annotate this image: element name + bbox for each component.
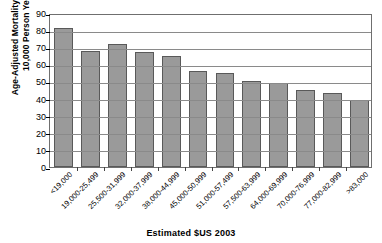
y-axis-tick-label: 60 [22, 60, 46, 70]
gridline [50, 32, 371, 33]
y-axis-tick [46, 15, 50, 16]
gridline [50, 117, 371, 118]
y-axis-tick [46, 151, 50, 152]
y-axis-tick [46, 100, 50, 101]
y-axis-tick-labels: 0102030405060708090 [22, 14, 46, 168]
y-axis-tick-label: 20 [22, 129, 46, 139]
x-axis-tick-labels: <19,00019,000-25,49925,500-31,99932,000-… [49, 170, 372, 226]
y-axis-tick [46, 32, 50, 33]
y-axis-tick-label: 10 [22, 146, 46, 156]
gridline [50, 134, 371, 135]
bar [242, 81, 261, 167]
bar [189, 71, 208, 167]
gridline [50, 83, 371, 84]
gridline [50, 151, 371, 152]
y-axis-tick-label: 90 [22, 9, 46, 19]
y-axis-tick-label: 40 [22, 95, 46, 105]
x-axis-title: Estimated $US 2003 [0, 228, 382, 238]
y-axis-tick [46, 49, 50, 50]
y-axis-tick-label: 30 [22, 112, 46, 122]
bar [323, 93, 342, 167]
y-axis-tick-label: 0 [22, 163, 46, 173]
bar [269, 83, 288, 167]
y-axis-tick [46, 83, 50, 84]
bar [296, 90, 315, 167]
bar [81, 51, 100, 167]
gridline [50, 100, 371, 101]
y-axis-tick [46, 117, 50, 118]
bar [216, 73, 235, 167]
gridline [50, 49, 371, 50]
y-axis-tick-label: 50 [22, 77, 46, 87]
bar-series [50, 15, 371, 167]
y-axis-tick-label: 80 [22, 26, 46, 36]
y-axis-tick [46, 66, 50, 67]
bar [135, 52, 154, 167]
x-axis-tick-label: >83,000 [344, 170, 370, 196]
y-axis-tick [46, 134, 50, 135]
gridline [50, 66, 371, 67]
x-axis-tick-label: <19,000 [48, 170, 74, 196]
plot-area [49, 14, 372, 168]
y-axis-title-line-1: Age-Adjusted Mortality Rate per [10, 0, 21, 95]
bar [108, 44, 127, 167]
y-axis-tick-label: 70 [22, 43, 46, 53]
bar [162, 56, 181, 167]
bar-chart: Age-Adjusted Mortality Rate per 10,000 P… [0, 0, 382, 243]
